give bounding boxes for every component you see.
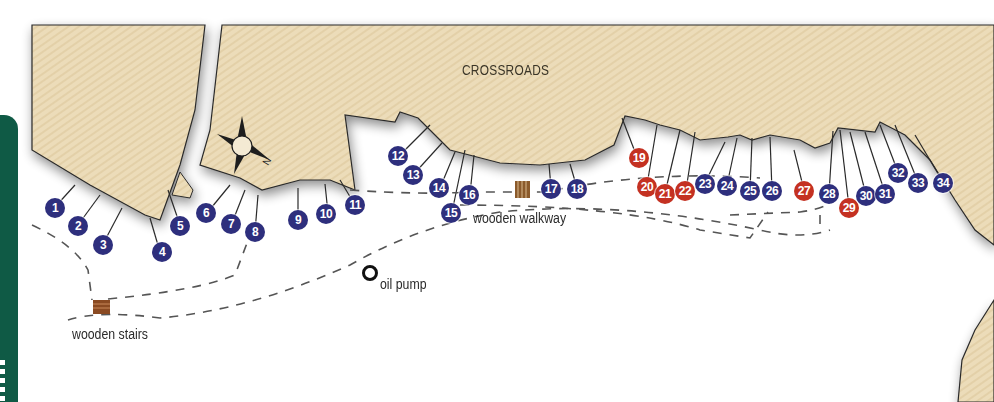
location-marker-28[interactable]: 28	[819, 184, 839, 204]
location-marker-4[interactable]: 4	[152, 242, 172, 262]
location-marker-24[interactable]: 24	[717, 176, 737, 196]
location-marker-25[interactable]: 25	[740, 181, 760, 201]
location-marker-21[interactable]: 21	[655, 184, 675, 204]
location-marker-7[interactable]: 7	[221, 214, 241, 234]
side-chapter-tab	[0, 115, 18, 402]
location-marker-16[interactable]: 16	[459, 185, 479, 205]
landmark-label-wooden-walkway: wooden walkway	[473, 210, 566, 226]
stairs-icon	[93, 300, 110, 314]
location-marker-33[interactable]: 33	[908, 173, 928, 193]
location-marker-6[interactable]: 6	[196, 203, 216, 223]
location-marker-30[interactable]: 30	[856, 186, 876, 206]
location-marker-15[interactable]: 15	[441, 203, 461, 223]
oil-pump-icon	[364, 267, 377, 280]
crossroads-map: N CROSSROADS wooden stairs wooden walkwa…	[0, 0, 994, 402]
landmark-label-wooden-stairs: wooden stairs	[72, 326, 148, 342]
location-marker-3[interactable]: 3	[93, 235, 113, 255]
location-marker-1[interactable]: 1	[45, 198, 65, 218]
location-marker-8[interactable]: 8	[245, 222, 265, 242]
location-marker-26[interactable]: 26	[762, 181, 782, 201]
location-marker-29[interactable]: 29	[839, 198, 859, 218]
location-marker-18[interactable]: 18	[567, 179, 587, 199]
walkway-icon	[515, 181, 530, 198]
location-marker-17[interactable]: 17	[541, 179, 561, 199]
location-marker-11[interactable]: 11	[345, 195, 365, 215]
area-label-crossroads: CROSSROADS	[462, 62, 549, 78]
location-marker-13[interactable]: 13	[403, 165, 423, 185]
location-marker-2[interactable]: 2	[68, 216, 88, 236]
location-marker-14[interactable]: 14	[429, 178, 449, 198]
location-marker-12[interactable]: 12	[388, 146, 408, 166]
location-marker-10[interactable]: 10	[316, 204, 336, 224]
location-marker-27[interactable]: 27	[794, 181, 814, 201]
location-marker-19[interactable]: 19	[629, 148, 649, 168]
tab-decoration	[0, 360, 5, 402]
location-marker-31[interactable]: 31	[875, 184, 895, 204]
location-marker-23[interactable]: 23	[695, 174, 715, 194]
location-marker-20[interactable]: 20	[637, 177, 657, 197]
location-marker-34[interactable]: 34	[933, 173, 953, 193]
landmark-label-oil-pump: oil pump	[380, 276, 427, 292]
location-marker-9[interactable]: 9	[288, 210, 308, 230]
location-marker-5[interactable]: 5	[170, 216, 190, 236]
location-marker-32[interactable]: 32	[888, 163, 908, 183]
location-marker-22[interactable]: 22	[675, 181, 695, 201]
